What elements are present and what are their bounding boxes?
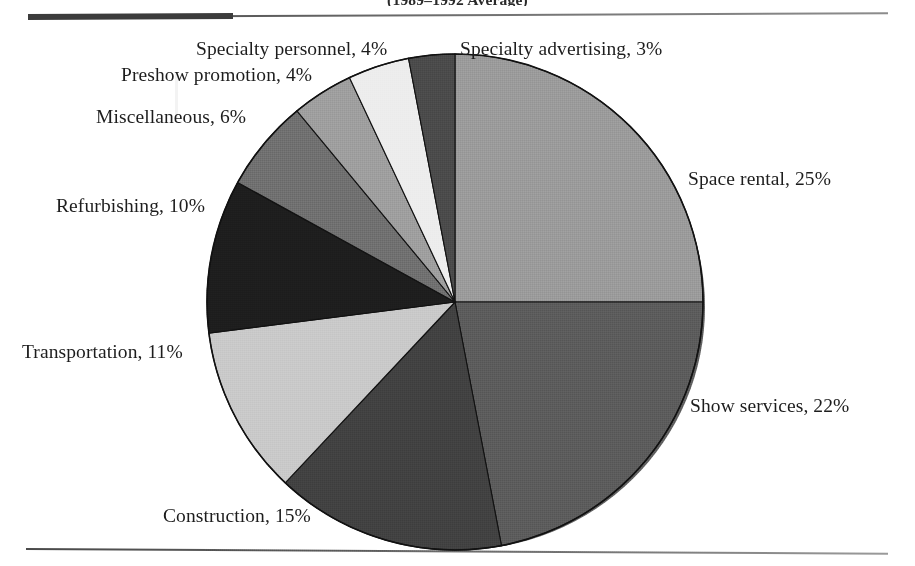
slice-label-construction: Construction, 15% (163, 505, 311, 527)
pie-slices (205, 52, 705, 552)
slice-label-specialty-personnel: Specialty personnel, 4% (196, 38, 387, 60)
slice-label-preshow-promotion: Preshow promotion, 4% (121, 64, 312, 86)
pie-chart (205, 52, 705, 552)
top-rule-thick-segment (28, 13, 233, 20)
chart-page: (1989–1992 Average) Specialty personnel,… (0, 0, 915, 566)
slice-label-miscellaneous: Miscellaneous, 6% (96, 106, 246, 128)
pie-slice-space-rental (455, 54, 703, 302)
slice-label-show-services: Show services, 22% (690, 395, 849, 417)
slice-label-specialty-advertising: Specialty advertising, 3% (460, 38, 662, 60)
slice-label-transportation: Transportation, 11% (22, 341, 183, 363)
page-title: (1989–1992 Average) (0, 0, 915, 6)
slice-label-refurbishing: Refurbishing, 10% (56, 195, 205, 217)
slice-label-space-rental: Space rental, 25% (688, 168, 831, 190)
